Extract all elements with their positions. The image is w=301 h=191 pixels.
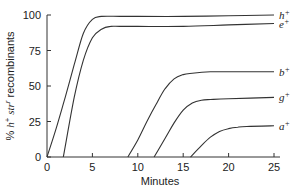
- axes: 05101520250255075100: [23, 9, 280, 173]
- y-tick-label: 100: [23, 9, 41, 21]
- y-tick-label: 50: [29, 80, 41, 92]
- x-tick-label: 10: [132, 161, 144, 173]
- series-label-b: b+: [279, 65, 290, 78]
- curve-e: [63, 24, 274, 158]
- x-tick-label: 25: [268, 161, 280, 173]
- x-tick-label: 5: [89, 161, 95, 173]
- y-axis-title: % h+ strr recombinants: [3, 31, 16, 141]
- curve-g: [154, 97, 274, 157]
- series-label-g: g+: [279, 90, 290, 103]
- curve-b: [128, 72, 274, 157]
- y-tick-label: 25: [29, 116, 41, 128]
- y-tick-label: 75: [29, 45, 41, 57]
- series-curves: [47, 15, 274, 157]
- series-labels: h+e+b+g+a+: [279, 8, 290, 132]
- curve-h: [47, 15, 274, 157]
- x-tick-label: 0: [44, 161, 50, 173]
- series-label-a: a+: [279, 119, 290, 132]
- series-label-e: e+: [279, 17, 289, 30]
- curve-a: [191, 126, 275, 157]
- x-tick-label: 15: [177, 161, 189, 173]
- x-axis-title: Minutes: [141, 175, 180, 187]
- x-tick-label: 20: [222, 161, 234, 173]
- line-chart: 05101520250255075100 h+e+b+g+a+ Minutes …: [0, 0, 301, 191]
- y-tick-label: 0: [35, 151, 41, 163]
